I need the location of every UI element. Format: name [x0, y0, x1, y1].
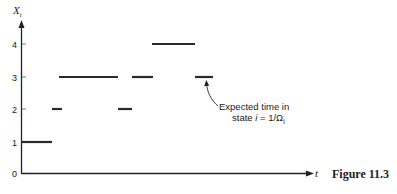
- step-chart: Xt t 0 1 2 3 4 Expected time in state i …: [0, 0, 397, 194]
- x-axis-label: t: [315, 167, 319, 179]
- y-axis-label: Xt: [12, 4, 23, 19]
- y-tick-label-4: 4: [12, 40, 17, 50]
- annotation-line-2: state i = 1/Ωi: [232, 112, 285, 125]
- y-tick-label-0: 0: [12, 169, 17, 179]
- y-tick-label-3: 3: [12, 73, 17, 83]
- y-tick-label-1: 1: [12, 138, 17, 148]
- y-tick-label-2: 2: [12, 105, 17, 115]
- y-ticks: [22, 44, 27, 142]
- annotation-line-1: Expected time in: [219, 101, 289, 112]
- annotation-arrow: [207, 83, 219, 106]
- figure-label: Figure 11.3: [332, 167, 389, 181]
- step-segments: [22, 44, 213, 142]
